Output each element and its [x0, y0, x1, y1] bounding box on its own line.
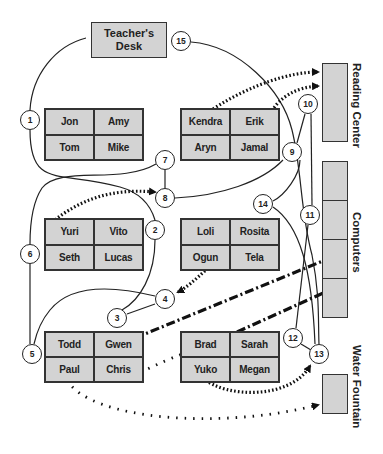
student-seat: Loli: [181, 219, 230, 245]
student-seat: Mike: [94, 135, 143, 161]
student-seat: Sarah: [230, 332, 279, 357]
computers-label: Computers: [351, 212, 363, 273]
student-seat: Tom: [45, 135, 94, 161]
student-seat: Seth: [45, 245, 94, 271]
node-8: 8: [155, 188, 175, 208]
student-seat: Kendra: [181, 109, 230, 135]
desk-group-4: Loli Rosita Ogun Tela: [180, 218, 280, 271]
node-11: 11: [300, 205, 320, 225]
student-seat: Tela: [230, 245, 279, 271]
teachers-desk-label-line2: Desk: [104, 40, 154, 53]
student-seat: Yuri: [45, 219, 94, 245]
student-seat: Rosita: [230, 219, 279, 245]
desk-group-3: Yuri Vito Seth Lucas: [44, 218, 144, 271]
computers-box: [322, 161, 348, 318]
node-10: 10: [298, 94, 318, 114]
desk-group-6: Brad Sarah Yuko Megan: [180, 331, 280, 383]
student-seat: Megan: [230, 357, 279, 382]
node-9: 9: [282, 142, 302, 162]
teachers-desk: Teacher's Desk: [91, 22, 167, 58]
node-4: 4: [155, 289, 175, 309]
student-seat: Todd: [45, 332, 94, 357]
student-seat: Chris: [94, 357, 143, 382]
student-seat: Paul: [45, 357, 94, 382]
node-2: 2: [145, 220, 165, 240]
student-seat: Amy: [94, 109, 143, 135]
computer-station-1: [323, 162, 347, 201]
student-seat: Aryn: [181, 135, 230, 161]
student-seat: Brad: [181, 332, 230, 357]
computer-station-2: [323, 201, 347, 240]
node-13: 13: [309, 344, 329, 364]
node-6: 6: [20, 244, 40, 264]
reading-center-label: Reading Center: [351, 63, 363, 148]
reading-center-box: [322, 63, 348, 142]
student-seat: Jamal: [230, 135, 279, 161]
desk-group-1: Jon Amy Tom Mike: [44, 108, 144, 161]
student-seat: Erik: [230, 109, 279, 135]
computer-station-4: [323, 279, 347, 317]
water-fountain-label: Water Fountain: [351, 345, 363, 428]
student-seat: Ogun: [181, 245, 230, 271]
student-seat: Yuko: [181, 357, 230, 382]
computer-station-3: [323, 240, 347, 279]
student-seat: Lucas: [94, 245, 143, 271]
node-14: 14: [253, 194, 273, 214]
student-seat: Jon: [45, 109, 94, 135]
node-12: 12: [283, 328, 303, 348]
node-15: 15: [171, 31, 191, 51]
student-seat: Gwen: [94, 332, 143, 357]
node-7: 7: [155, 150, 175, 170]
node-1: 1: [20, 110, 40, 130]
student-seat: Vito: [94, 219, 143, 245]
teachers-desk-label-line1: Teacher's: [104, 27, 154, 40]
node-3: 3: [107, 308, 127, 328]
desk-group-5: Todd Gwen Paul Chris: [44, 331, 144, 383]
desk-group-2: Kendra Erik Aryn Jamal: [180, 108, 280, 161]
water-fountain-box: [322, 374, 348, 414]
node-5: 5: [22, 344, 42, 364]
